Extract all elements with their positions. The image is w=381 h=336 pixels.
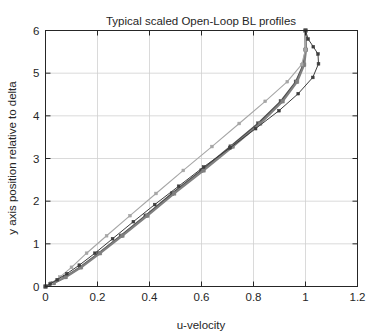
- x-tick-label: 0.2: [90, 291, 106, 303]
- data-marker: [286, 80, 289, 83]
- data-marker: [238, 122, 241, 125]
- data-marker: [311, 76, 314, 79]
- data-marker: [146, 214, 149, 217]
- data-marker: [49, 283, 52, 286]
- data-marker: [304, 48, 307, 51]
- y-tick-label: 4: [33, 110, 40, 122]
- data-marker: [70, 266, 73, 269]
- data-marker: [85, 252, 88, 255]
- y-tick-label: 1: [33, 238, 39, 250]
- data-marker: [111, 237, 114, 240]
- y-tick-label: 0: [33, 281, 39, 293]
- x-tick-label: 0: [42, 291, 48, 303]
- data-marker: [129, 214, 132, 217]
- data-marker: [317, 62, 320, 65]
- data-marker: [254, 127, 257, 130]
- data-marker: [78, 264, 81, 267]
- data-marker: [202, 169, 205, 172]
- y-tick-label: 5: [33, 67, 39, 79]
- data-marker: [297, 92, 300, 95]
- data-marker: [65, 272, 68, 275]
- x-tick-label: 0.8: [246, 291, 262, 303]
- data-marker: [132, 220, 135, 223]
- data-marker: [155, 192, 158, 195]
- data-marker: [264, 100, 267, 103]
- x-axis-label: u-velocity: [177, 319, 226, 331]
- data-marker: [202, 166, 205, 169]
- data-marker: [300, 63, 303, 66]
- x-tick-label: 0.4: [142, 291, 159, 303]
- data-marker: [177, 185, 180, 188]
- data-marker: [281, 100, 284, 103]
- data-marker: [105, 234, 108, 237]
- data-marker: [173, 192, 176, 195]
- data-marker: [182, 169, 185, 172]
- x-tick-label: 1: [302, 291, 308, 303]
- y-tick-label: 2: [33, 195, 39, 207]
- data-marker: [64, 275, 67, 278]
- data-marker: [229, 146, 232, 149]
- data-marker: [153, 203, 156, 206]
- data-marker: [312, 45, 315, 48]
- x-tick-label: 0.6: [194, 291, 210, 303]
- chart-title: Typical scaled Open-Loop BL profiles: [106, 15, 296, 27]
- data-marker: [295, 80, 298, 83]
- y-axis-label: y axis position relative to delta: [6, 81, 18, 235]
- x-tick-label: 1.2: [350, 291, 366, 303]
- open-loop-bl-profiles-chart: 00.20.40.60.811.20123456Typical scaled O…: [0, 0, 381, 336]
- chart-background: [0, 0, 381, 336]
- data-marker: [278, 109, 281, 112]
- figure-canvas: 00.20.40.60.811.20123456Typical scaled O…: [0, 0, 381, 336]
- data-marker: [307, 38, 310, 41]
- y-tick-label: 6: [33, 25, 39, 37]
- data-marker: [121, 234, 124, 237]
- data-marker: [211, 145, 214, 148]
- data-marker: [98, 252, 101, 255]
- data-marker: [94, 252, 97, 255]
- y-tick-label: 3: [33, 153, 39, 165]
- data-marker: [56, 278, 59, 281]
- data-marker: [317, 53, 320, 56]
